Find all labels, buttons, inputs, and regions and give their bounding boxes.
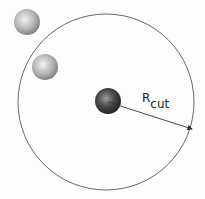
neighbor-particle-outside (14, 9, 40, 35)
cutoff-label: Rcut (142, 91, 170, 111)
cutoff-radius-diagram: Rcut (0, 0, 205, 199)
diagram-svg: Rcut (0, 0, 205, 199)
cutoff-label-main: R (142, 91, 150, 105)
central-particle (95, 88, 121, 114)
cutoff-label-subscript: cut (150, 97, 169, 111)
neighbor-particle-inside (32, 54, 58, 80)
